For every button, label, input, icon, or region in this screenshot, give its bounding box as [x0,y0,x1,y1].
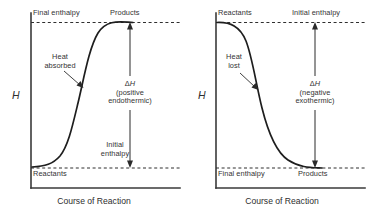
endothermic-chart-svg [0,0,188,216]
final-enthalpy-label: Final enthalpy [33,9,80,18]
delta-h-arrow-head-down [127,161,133,169]
delta-h-note-line2: endothermic) [108,96,152,105]
heat-lost-pointer-shaft [240,73,255,87]
final-enthalpy-label: Final enthalpy [218,170,265,179]
heat-absorbed-label-line2: absorbed [44,61,75,70]
enthalpy-diagram-figure: Final enthalpy Products Heat absorbed ΔH… [0,0,376,216]
initial-enthalpy-label: Initial enthalpy [292,9,340,18]
reactants-label: Reactants [218,9,252,18]
delta-h-arrow-head-up [312,22,318,30]
heat-lost-label: Heat lost [213,53,255,70]
heat-absorbed-label: Heat absorbed [34,53,86,70]
x-axis-title: Course of Reaction [188,196,376,206]
heat-absorbed-pointer-shaft [64,71,80,85]
endothermic-chart-panel: Final enthalpy Products Heat absorbed ΔH… [0,0,188,216]
y-axis-title: H [198,89,206,101]
initial-enthalpy-label: Initial enthalpy [92,141,138,158]
reactants-label: Reactants [33,170,67,179]
y-axis-title: H [12,89,20,101]
products-label: Products [298,170,328,179]
delta-h-annotation: ΔH (negative exothermic) [283,80,347,106]
initial-enthalpy-label-line2: enthalpy [101,149,129,158]
products-label: Products [110,9,140,18]
heat-lost-label-line2: lost [228,61,240,70]
exothermic-chart-panel: Reactants Initial enthalpy Heat lost ΔH … [188,0,376,216]
delta-h-annotation: ΔH (positive endothermic) [98,80,162,106]
delta-h-note-line2: exothermic) [295,96,334,105]
exothermic-chart-svg [188,0,376,216]
x-axis-title: Course of Reaction [0,196,188,206]
